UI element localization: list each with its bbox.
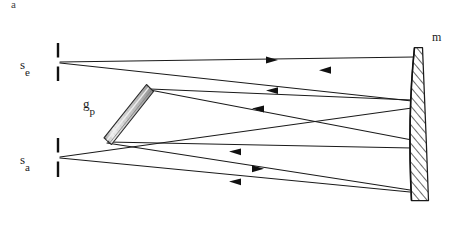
grating-edge-shadow (110, 90, 152, 143)
exit-slit-label: sa (20, 151, 30, 170)
ray-5 (108, 142, 412, 148)
mirror-label: m (432, 31, 441, 43)
grating-label-subscript: p (90, 105, 96, 117)
arrowhead-left-ray3 (266, 87, 278, 94)
ray-diagram-canvas (0, 0, 461, 227)
arrowhead-left-ray2 (319, 67, 331, 74)
optical-ray-diagram-figure: a se sa gp m (0, 0, 461, 227)
arrowhead-left-ray7 (229, 178, 241, 185)
entrance-slit-label-subscript: e (25, 66, 30, 78)
grating-edge-highlight (107, 88, 149, 141)
grating-label: gp (83, 95, 95, 114)
exit-slit-label-subscript: a (25, 161, 30, 173)
diffraction-grating (104, 85, 154, 145)
ray-1 (60, 57, 414, 62)
grating-label-base: g (83, 96, 90, 111)
arrowhead-left-ray4 (252, 106, 264, 113)
panel-label: a (11, 0, 16, 10)
arrowhead-left-ray5 (229, 148, 241, 155)
ray-3 (150, 89, 412, 100)
entrance-slit-label: se (20, 56, 30, 75)
ray-4 (150, 90, 412, 140)
ray-bundle (60, 57, 414, 192)
concave-mirror (410, 48, 428, 201)
ray-2 (60, 63, 412, 101)
arrowhead-right-ray1 (266, 57, 278, 64)
